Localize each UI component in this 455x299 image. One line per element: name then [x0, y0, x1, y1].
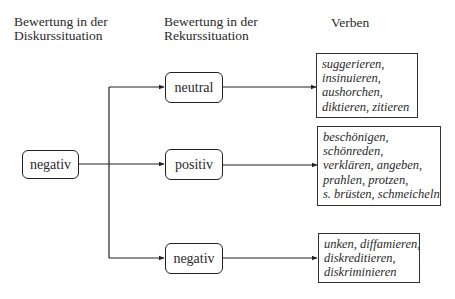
node-negativ-label: negativ: [173, 251, 214, 267]
verb-line: diskreditieren,: [324, 251, 415, 265]
verb-line: schönreden,: [323, 144, 436, 158]
verb-line: diktieren, zitieren: [322, 100, 413, 114]
node-positiv-label: positiv: [175, 157, 213, 173]
verbs-positiv: beschönigen, schönreden, verklären, ange…: [317, 126, 441, 206]
verb-line: unken, diffamieren,: [324, 237, 415, 251]
node-neutral: neutral: [165, 72, 223, 103]
verbs-negativ: unken, diffamieren, diskreditieren, disk…: [318, 233, 420, 283]
verb-line: aushorchen,: [322, 85, 413, 99]
node-positiv: positiv: [165, 149, 223, 180]
node-negativ: negativ: [165, 243, 223, 274]
verb-line: s. brüsten, schmeicheln: [323, 187, 436, 201]
verb-line: diskriminieren: [324, 265, 415, 279]
verb-line: verklären, angeben,: [323, 158, 436, 172]
verb-line: insinuieren,: [322, 71, 413, 85]
verb-line: beschönigen,: [323, 130, 436, 144]
node-neutral-label: neutral: [175, 80, 214, 96]
verb-line: suggerieren,: [322, 57, 413, 71]
verb-line: prahlen, protzen,: [323, 173, 436, 187]
node-source-label: negativ: [30, 157, 71, 173]
node-source-negativ: negativ: [22, 150, 79, 179]
verbs-neutral: suggerieren, insinuieren, aushorchen, di…: [316, 53, 418, 118]
